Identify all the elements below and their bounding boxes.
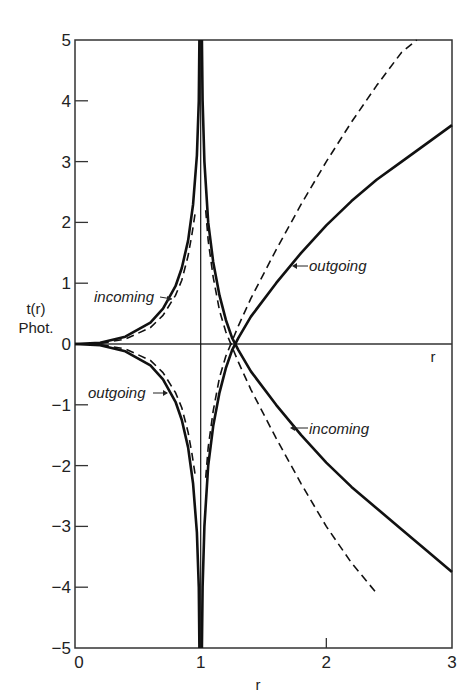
annotation-text: outgoing [88, 384, 146, 401]
y-tick-label: −1 [52, 396, 71, 415]
y-tick-label: −4 [52, 578, 71, 597]
series-line [202, 125, 452, 648]
y-tick-label: 3 [62, 153, 71, 172]
x-tick-label: 3 [447, 653, 456, 672]
y-tick-label: 0 [62, 335, 71, 354]
x-tick-label: 2 [322, 653, 331, 672]
x-tick-label: 1 [196, 653, 205, 672]
annotation-text: incoming [309, 420, 370, 437]
plot-frame [75, 40, 452, 648]
y-tick-label: −5 [52, 639, 71, 658]
ticks: −5−4−3−2−10123450123 [52, 31, 457, 672]
y-tick-label: 2 [62, 213, 71, 232]
y-tick-label: 4 [62, 92, 71, 111]
y-tick-label: −3 [52, 517, 71, 536]
annotation-text: incoming [94, 288, 155, 305]
x-tick-label: 0 [74, 653, 83, 672]
annotation-outgoing-right: outgoing [292, 257, 367, 274]
arrowhead-icon [163, 390, 168, 396]
y-axis-label-line2: Phot. [18, 319, 53, 336]
inner-r-label: r [431, 348, 436, 365]
chart: −5−4−3−2−10123450123 t(r) Phot. r r inco… [0, 0, 475, 695]
annotation-text: outgoing [309, 257, 367, 274]
annotation-incoming-left: incoming [94, 288, 172, 305]
series-line [202, 40, 452, 572]
y-tick-label: −2 [52, 457, 71, 476]
y-tick-label: 5 [62, 31, 71, 50]
annotation-outgoing-left: outgoing [88, 384, 168, 401]
x-axis-label: r [256, 676, 261, 693]
y-tick-label: 1 [62, 274, 71, 293]
y-axis-label-line1: t(r) [26, 300, 45, 317]
